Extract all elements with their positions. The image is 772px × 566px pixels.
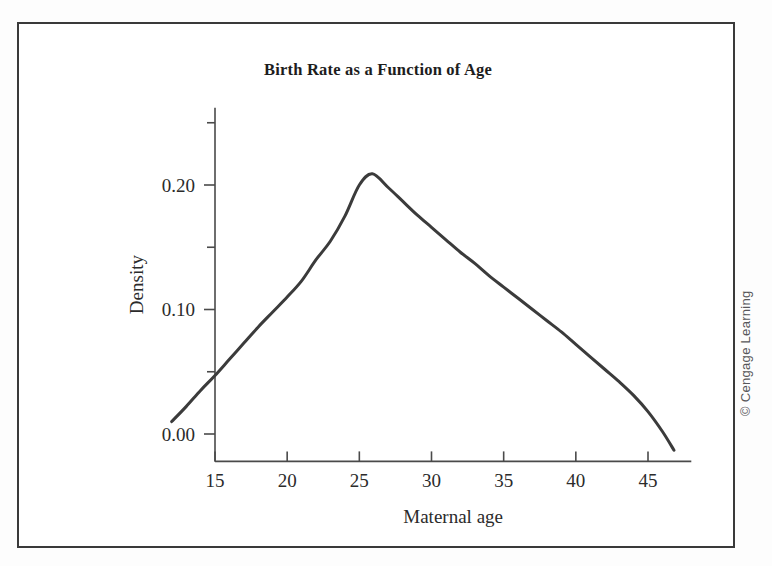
svg-text:35: 35: [494, 470, 513, 491]
chart-curve: [172, 174, 674, 450]
svg-text:40: 40: [566, 470, 585, 491]
scanned-page: Birth Rate as a Function of Age 0.000.10…: [0, 0, 772, 566]
chart-plot-area: 0.000.100.2015202530354045Maternal ageDe…: [19, 24, 737, 550]
svg-text:0.20: 0.20: [162, 175, 195, 196]
svg-text:Density: Density: [126, 255, 147, 315]
svg-text:0.10: 0.10: [162, 299, 195, 320]
svg-text:15: 15: [206, 470, 225, 491]
svg-text:0.00: 0.00: [162, 424, 195, 445]
copyright-credit: © Cengage Learning: [738, 246, 753, 416]
svg-text:20: 20: [278, 470, 297, 491]
svg-text:25: 25: [350, 470, 369, 491]
svg-text:Maternal age: Maternal age: [403, 506, 503, 527]
figure-frame: Birth Rate as a Function of Age 0.000.10…: [17, 22, 735, 548]
svg-text:45: 45: [639, 470, 658, 491]
chart-axis-labels: 0.000.100.2015202530354045Maternal ageDe…: [126, 175, 658, 528]
chart-axes: [204, 108, 691, 462]
svg-text:30: 30: [422, 470, 441, 491]
